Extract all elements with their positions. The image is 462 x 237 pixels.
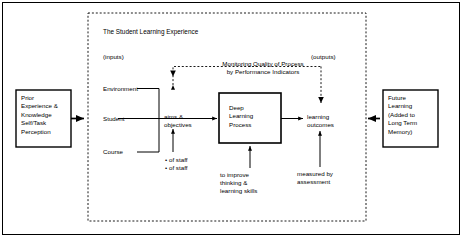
learning-outcomes-label: learning outcomes xyxy=(307,113,349,129)
input-factor-course: Course xyxy=(103,148,123,156)
prior-experience-box-text: Prior Experience & Knowledge Self/Task P… xyxy=(21,94,71,136)
improve-thinking-label: to improve thinking & learning skills xyxy=(220,171,278,196)
input-factor-student: Student xyxy=(103,115,124,123)
feedback-loop-label: Monitoring Quality of Process by Perform… xyxy=(196,60,330,76)
deep-learning-process-box-text: Deep Learning Process xyxy=(229,104,279,129)
aims-objectives-label: aims & objectives xyxy=(164,113,210,129)
feedback-loop-left-arrowhead xyxy=(170,71,176,77)
feedback-loop-right-arrowhead xyxy=(318,97,324,103)
measured-by-assessment-label: measured by assessment xyxy=(297,170,353,186)
staff-notes-label: • of staff • of staff xyxy=(165,156,213,172)
future-learning-box-text: Future Learning (Added to Long Term Memo… xyxy=(388,94,438,136)
diagram-canvas: The Student Learning Experience (inputs)… xyxy=(0,0,462,237)
inputs-label: (inputs) xyxy=(103,53,124,61)
diagram-title: The Student Learning Experience xyxy=(103,28,198,35)
input-factor-environment: Environment xyxy=(103,85,138,93)
